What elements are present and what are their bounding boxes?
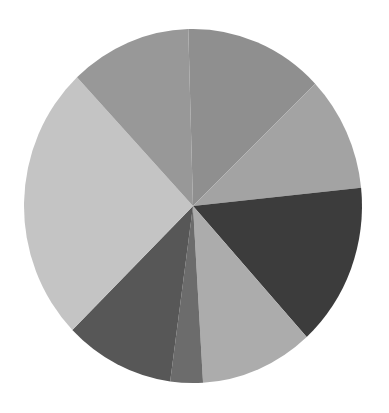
pie-chart [0, 0, 389, 413]
pie-slices [24, 29, 362, 383]
